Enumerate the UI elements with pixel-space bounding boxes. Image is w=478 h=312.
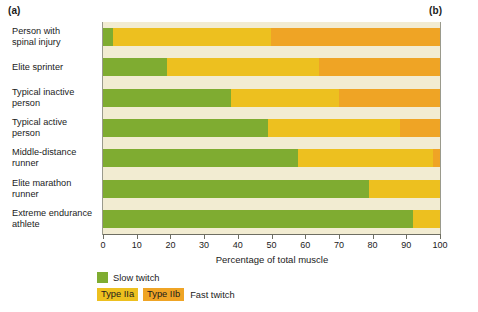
plot-frame-right: [440, 22, 441, 235]
bar-segment-type-iib: [319, 58, 440, 76]
category-label: Middle-distance runner: [12, 147, 102, 169]
bar-segment-type-iib: [400, 119, 440, 137]
bar-segment-type-iia: [231, 89, 339, 107]
bar-row: [103, 89, 440, 107]
chart-legend: Slow twitch Type IIa Type IIb Fast twitc…: [97, 272, 327, 306]
panel-label-a: (a): [8, 5, 21, 16]
bar-row: [103, 149, 440, 167]
legend-chip-type-iib: Type IIb: [143, 288, 184, 301]
bar-segment-type-iib: [433, 149, 440, 167]
bar-segment-type-iia: [413, 210, 440, 228]
bar-row: [103, 210, 440, 228]
legend-row-slow-twitch: Slow twitch: [97, 272, 160, 283]
x-tick-label: 90: [394, 240, 418, 250]
x-tick-label: 100: [428, 240, 452, 250]
bar-row: [103, 119, 440, 137]
bar-segment-slow-twitch: [103, 180, 369, 198]
x-tick-mark: [339, 235, 340, 239]
x-tick-label: 70: [327, 240, 351, 250]
category-label: Elite marathon runner: [12, 178, 102, 200]
x-axis-title: Percentage of total muscle: [103, 254, 441, 265]
x-tick-mark: [373, 235, 374, 239]
x-tick-mark: [238, 235, 239, 239]
x-tick-label: 0: [91, 240, 115, 250]
plot-area: [103, 22, 440, 234]
x-tick-mark: [170, 235, 171, 239]
panel-label-b: (b): [429, 5, 442, 16]
category-label: Person with spinal injury: [12, 26, 102, 48]
bar-segment-slow-twitch: [103, 149, 298, 167]
category-axis-labels: Person with spinal injuryElite sprinterT…: [12, 22, 100, 234]
bar-segment-type-iia: [298, 149, 433, 167]
x-tick-mark: [305, 235, 306, 239]
x-tick-mark: [406, 235, 407, 239]
x-tick-mark: [103, 235, 104, 239]
bar-segment-slow-twitch: [103, 58, 167, 76]
figure-container: (a) (b) Person with spinal injuryElite s…: [0, 0, 478, 312]
x-tick-mark: [272, 235, 273, 239]
bar-segment-type-iia: [369, 180, 440, 198]
x-tick-label: 50: [260, 240, 284, 250]
legend-label-fast-twitch: Fast twitch: [190, 290, 234, 300]
bar-row: [103, 28, 440, 46]
category-label: Extreme endurance athlete: [12, 208, 102, 230]
x-tick-label: 60: [293, 240, 317, 250]
legend-swatch-slow-twitch: [97, 272, 108, 283]
bar-segment-type-iia: [268, 119, 399, 137]
bar-segment-slow-twitch: [103, 119, 268, 137]
legend-label-slow-twitch: Slow twitch: [113, 273, 160, 283]
category-label: Typical active person: [12, 117, 102, 139]
bar-segment-type-iia: [167, 58, 319, 76]
bar-row: [103, 180, 440, 198]
bar-segment-slow-twitch: [103, 210, 413, 228]
x-tick-mark: [440, 235, 441, 239]
category-label: Typical inactive person: [12, 87, 102, 109]
legend-row-fast-twitch: Type IIa Type IIb Fast twitch: [97, 288, 235, 301]
bar-segment-slow-twitch: [103, 28, 113, 46]
x-tick-label: 20: [158, 240, 182, 250]
legend-chip-type-iia: Type IIa: [97, 288, 138, 301]
bar-row: [103, 58, 440, 76]
bar-segment-slow-twitch: [103, 89, 231, 107]
category-label: Elite sprinter: [12, 62, 102, 73]
x-tick-mark: [137, 235, 138, 239]
x-tick-label: 40: [226, 240, 250, 250]
x-tick-label: 80: [361, 240, 385, 250]
x-tick-mark: [204, 235, 205, 239]
bar-segment-type-iia: [113, 28, 271, 46]
bar-segment-type-iib: [339, 89, 440, 107]
x-tick-label: 10: [125, 240, 149, 250]
x-tick-label: 30: [192, 240, 216, 250]
bar-segment-type-iib: [271, 28, 440, 46]
